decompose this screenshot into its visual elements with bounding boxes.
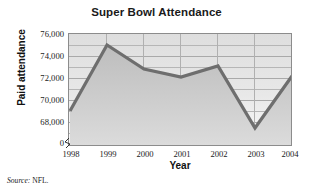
x-tick-label: 1999 — [88, 149, 128, 159]
y-axis-tick-labels: 76,000 74,000 72,000 70,000 68,000 0 — [0, 0, 64, 193]
y-tick-label: 68,000 — [40, 117, 64, 127]
x-axis-title: Year — [68, 160, 292, 171]
y-tick-label: 74,000 — [40, 51, 64, 61]
axis-break-icon — [62, 137, 74, 149]
x-tick-label: 2001 — [162, 149, 202, 159]
y-axis-title: Paid attendance — [16, 16, 27, 120]
x-tick-label: 1998 — [51, 149, 91, 159]
source-label: Source: — [7, 176, 30, 185]
source-value: NFL. — [32, 176, 48, 185]
x-tick-label: 2002 — [199, 149, 239, 159]
y-tick-label: 70,000 — [40, 95, 64, 105]
data-line-series — [69, 34, 292, 146]
x-tick-label: 2000 — [125, 149, 165, 159]
x-tick-label: 2004 — [270, 149, 310, 159]
chart-figure: Super Bowl Attendance 76,000 74,000 72,0… — [0, 0, 313, 193]
plot-area — [68, 33, 292, 146]
y-tick-label: 72,000 — [40, 73, 64, 83]
source-note: Source: NFL. — [7, 176, 49, 185]
y-tick-label: 76,000 — [40, 29, 64, 39]
